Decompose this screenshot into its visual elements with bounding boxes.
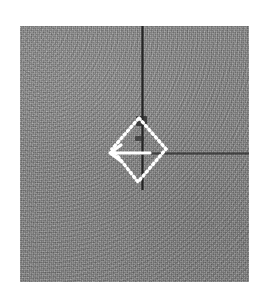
left-arrow-icon [110, 145, 150, 161]
grayscale-image-plate [20, 26, 249, 282]
figure-root [0, 0, 267, 303]
arrow-marker-svg [106, 142, 152, 164]
arrow-marker [106, 142, 152, 164]
